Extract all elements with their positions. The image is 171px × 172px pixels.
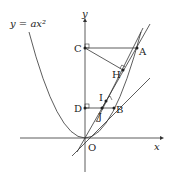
segment-CH	[85, 48, 123, 70]
label-H: H	[112, 69, 121, 80]
y-axis-label: y	[81, 8, 88, 19]
label-A: A	[138, 46, 147, 57]
point-J	[101, 107, 104, 110]
point-H	[122, 69, 125, 72]
label-C: C	[74, 43, 82, 54]
point-I	[105, 100, 108, 103]
label-D: D	[74, 103, 82, 114]
line-OA	[77, 24, 150, 152]
line-OB	[72, 78, 150, 156]
point-C	[84, 47, 87, 50]
parabola-diagram: y = ax² y x O C A H D B J I	[0, 0, 171, 172]
label-I: I	[99, 92, 103, 103]
x-axis-label: x	[154, 141, 160, 152]
curve-label: y = ax²	[9, 18, 46, 29]
point-D	[84, 107, 87, 110]
label-B: B	[116, 104, 123, 115]
label-J: J	[97, 111, 102, 122]
label-O: O	[88, 142, 96, 153]
